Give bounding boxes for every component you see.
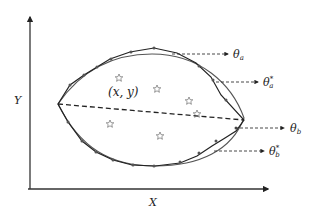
svg-text:θa: θa [233, 48, 244, 62]
sample-points [106, 74, 201, 139]
axes [28, 17, 268, 189]
x-axis-label: X [148, 196, 158, 209]
annotation-theta-b: θb [290, 122, 302, 136]
annotation-theta-a: θa [233, 48, 244, 62]
svg-text:θb: θb [290, 122, 302, 136]
point-label: (x, y) [108, 85, 139, 99]
star-icon [115, 74, 123, 81]
fitted-boundary-curve [58, 54, 244, 166]
annotation-theta-b-star: θ*b [269, 144, 280, 159]
svg-text:θ*a: θ*a [263, 75, 274, 90]
star-icon [153, 85, 161, 92]
diagram-canvas: (x, y) Y X θa θ*a θb θ*b [0, 0, 315, 217]
svg-text:θ*b: θ*b [269, 144, 280, 159]
star-icon [106, 120, 114, 127]
star-icon [156, 132, 164, 139]
y-axis-label: Y [14, 94, 23, 107]
annotation-theta-a-star: θ*a [263, 75, 274, 90]
star-icon [185, 97, 193, 104]
chord-dashed-line [58, 104, 244, 120]
